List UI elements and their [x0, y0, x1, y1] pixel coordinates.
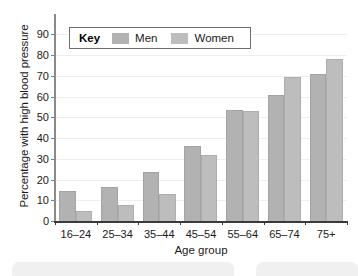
bar-men	[59, 191, 76, 221]
x-tick-label: 75+	[317, 228, 336, 240]
legend-label-men: Men	[135, 32, 157, 44]
x-tick-label: 25–34	[102, 228, 133, 240]
x-tick-label: 45–54	[186, 228, 217, 240]
bar-men	[310, 74, 327, 221]
bottom-panel-right	[256, 262, 358, 276]
y-tick-label: 30	[37, 153, 49, 165]
y-tick-label: 40	[37, 132, 49, 144]
bar-men	[226, 110, 243, 221]
x-tick-mark	[55, 221, 56, 225]
y-tick-label: 90	[37, 28, 49, 40]
x-tick-label: 55–64	[227, 228, 258, 240]
bar-men	[268, 95, 285, 221]
legend-entry-women: Women	[171, 32, 240, 44]
x-tick-label: 16–24	[61, 228, 92, 240]
bar-women	[159, 194, 176, 221]
bar-group	[180, 24, 222, 221]
x-tick-mark	[347, 221, 348, 225]
legend-swatch-men	[112, 33, 129, 44]
y-tick-label: 20	[37, 174, 49, 186]
bar-men	[143, 172, 160, 221]
x-tick-mark	[138, 221, 139, 225]
y-axis-title: Percentage with high blood pressure	[18, 6, 30, 226]
bottom-panel-left	[12, 262, 234, 276]
bar-women	[201, 155, 218, 221]
x-axis-line	[54, 221, 347, 223]
chart-legend: Key Men Women	[69, 27, 251, 49]
legend-key-label: Key	[79, 32, 100, 44]
legend-entry-men: Men	[112, 32, 164, 44]
x-tick-label: 65–74	[269, 228, 300, 240]
bar-group	[222, 24, 264, 221]
bar-women	[76, 211, 93, 221]
x-tick-mark	[97, 221, 98, 225]
y-tick-label: 10	[37, 194, 49, 206]
legend-label-women: Women	[194, 32, 233, 44]
plot-area: 0102030405060708090 16–2425–3435–4445–54…	[55, 24, 347, 222]
bar-men	[184, 146, 201, 221]
bar-group	[305, 24, 347, 221]
bar-group	[97, 24, 139, 221]
x-tick-label: 35–44	[144, 228, 175, 240]
y-tick-label: 70	[37, 70, 49, 82]
y-tick-label: 60	[37, 91, 49, 103]
x-tick-mark	[222, 221, 223, 225]
legend-swatch-women	[171, 33, 188, 44]
y-tick-label: 50	[37, 111, 49, 123]
bar-women	[326, 59, 343, 221]
x-axis-title: Age group	[55, 244, 347, 256]
bar-women	[118, 205, 135, 221]
y-tick-label: 80	[37, 49, 49, 61]
bar-men	[101, 187, 118, 221]
x-tick-mark	[180, 221, 181, 225]
bar-group	[55, 24, 97, 221]
bar-women	[284, 77, 301, 221]
y-tick-label: 0	[43, 215, 49, 227]
bar-chart-figure: Percentage with high blood pressure 0102…	[0, 0, 358, 276]
bar-group	[264, 24, 306, 221]
bar-group	[138, 24, 180, 221]
bar-women	[243, 111, 260, 221]
x-tick-mark	[264, 221, 265, 225]
x-tick-mark	[305, 221, 306, 225]
